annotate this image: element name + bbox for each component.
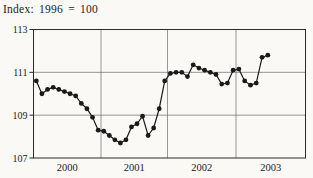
data-point	[179, 70, 184, 75]
y-tick-label: 107	[13, 153, 28, 164]
data-point	[79, 101, 84, 106]
data-point	[56, 87, 61, 92]
data-point	[208, 70, 213, 75]
data-point	[265, 53, 270, 58]
data-point	[185, 74, 190, 79]
index-line-chart: 1131111091072000200120022003	[0, 0, 313, 178]
data-point	[242, 79, 247, 84]
x-tick-label: 2003	[260, 162, 281, 173]
data-point	[101, 129, 106, 134]
x-tick-label: 2002	[191, 162, 212, 173]
data-point	[151, 126, 156, 131]
data-point	[124, 137, 129, 142]
y-tick-label: 111	[13, 67, 27, 78]
plot-border	[34, 30, 306, 159]
x-tick-label: 2001	[124, 162, 145, 173]
data-point	[162, 79, 167, 84]
data-point	[174, 70, 179, 75]
data-point	[96, 128, 101, 133]
data-point	[62, 89, 67, 94]
data-point	[129, 125, 134, 130]
data-point	[135, 121, 140, 126]
data-point	[254, 81, 259, 86]
data-point	[248, 83, 253, 88]
data-point	[90, 115, 95, 120]
data-point	[191, 62, 196, 67]
data-point	[112, 137, 117, 142]
data-point	[51, 85, 56, 90]
y-tick-label: 113	[13, 24, 28, 35]
data-point	[236, 67, 241, 72]
data-point	[168, 71, 173, 76]
data-point	[214, 72, 219, 77]
data-point	[202, 68, 207, 73]
data-point	[40, 91, 45, 96]
data-point	[157, 106, 162, 111]
data-point	[45, 87, 50, 92]
data-point	[146, 133, 151, 138]
data-point	[196, 66, 201, 71]
data-point	[118, 141, 123, 146]
data-point	[231, 68, 236, 73]
data-point	[85, 106, 90, 111]
data-point	[219, 82, 224, 87]
x-tick-label: 2000	[57, 162, 78, 173]
data-point	[68, 91, 73, 96]
data-point	[107, 133, 112, 138]
data-point	[140, 114, 145, 119]
y-tick-label: 109	[13, 110, 28, 121]
data-point	[260, 55, 265, 60]
data-point	[225, 81, 230, 86]
data-point	[73, 93, 78, 98]
data-point	[34, 79, 39, 84]
